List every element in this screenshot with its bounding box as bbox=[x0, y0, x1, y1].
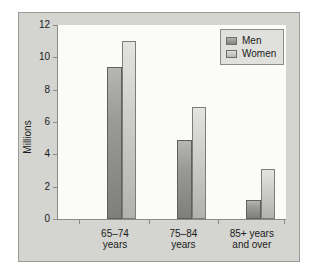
y-tick-label-10: 10 bbox=[39, 52, 50, 62]
bar-women-75-84[interactable] bbox=[192, 107, 206, 219]
legend-item-women[interactable]: Women bbox=[226, 47, 276, 60]
bar-men-85-over[interactable] bbox=[246, 200, 261, 219]
bar-men-75-84[interactable] bbox=[177, 140, 192, 219]
y-tick-label-6: 6 bbox=[44, 117, 50, 127]
chart-figure: Millions 0 2 4 6 8 10 12 bbox=[18, 12, 300, 262]
x-tick-1 bbox=[149, 219, 150, 224]
y-tick-10 bbox=[53, 57, 58, 58]
y-tick-4 bbox=[53, 154, 58, 155]
legend-label-women: Women bbox=[242, 48, 276, 59]
y-tick-label-12: 12 bbox=[39, 20, 50, 30]
x-tick-3 bbox=[284, 219, 285, 224]
x-tick-0 bbox=[79, 219, 80, 224]
y-tick-6 bbox=[53, 122, 58, 123]
y-tick-label-8: 8 bbox=[44, 85, 50, 95]
bar-women-65-74[interactable] bbox=[122, 41, 136, 219]
y-tick-12 bbox=[53, 25, 58, 26]
legend-item-men[interactable]: Men bbox=[226, 34, 276, 47]
x-tick-2 bbox=[218, 219, 219, 224]
bar-men-65-74[interactable] bbox=[107, 67, 122, 219]
x-category-75-84-line1: 75–84 bbox=[169, 228, 197, 239]
x-category-65-74: 65–74 years bbox=[101, 228, 129, 250]
legend-swatch-women-icon bbox=[226, 50, 237, 58]
x-category-75-84-line2: years bbox=[169, 239, 197, 250]
legend-swatch-men-icon bbox=[226, 37, 237, 45]
x-category-75-84: 75–84 years bbox=[169, 228, 197, 250]
x-category-85-over: 85+ years and over bbox=[230, 228, 274, 250]
chart-legend[interactable]: Men Women bbox=[220, 29, 284, 65]
x-category-85-over-line2: and over bbox=[230, 239, 274, 250]
y-tick-2 bbox=[53, 187, 58, 188]
y-tick-label-4: 4 bbox=[44, 149, 50, 159]
x-category-65-74-line2: years bbox=[101, 239, 129, 250]
y-tick-label-0: 0 bbox=[44, 214, 50, 224]
y-tick-label-2: 2 bbox=[44, 182, 50, 192]
y-tick-0 bbox=[53, 219, 58, 220]
y-tick-8 bbox=[53, 90, 58, 91]
x-category-85-over-line1: 85+ years bbox=[230, 228, 274, 239]
legend-label-men: Men bbox=[242, 35, 261, 46]
bar-women-85-over[interactable] bbox=[261, 169, 275, 219]
x-category-65-74-line1: 65–74 bbox=[101, 228, 129, 239]
y-axis-label: Millions bbox=[22, 120, 33, 153]
